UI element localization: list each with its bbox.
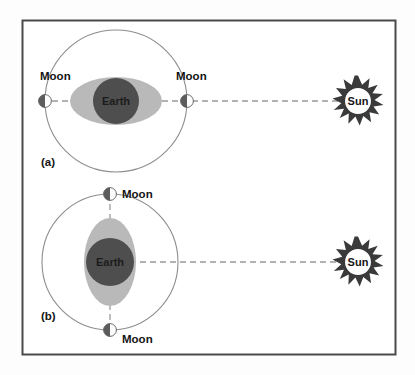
moon-a-right: [181, 95, 194, 108]
figure-container: Earth Moon Moon Sun (a): [0, 0, 415, 375]
moon-a-left: [39, 95, 52, 108]
earth-label-b: Earth: [96, 256, 124, 268]
tidal-diagram-svg: Earth Moon Moon Sun (a): [0, 0, 415, 375]
earth-label-a: Earth: [102, 95, 130, 107]
moon-a-left-label: Moon: [40, 70, 71, 82]
moon-b-bottom-label: Moon: [122, 333, 153, 345]
sun-a-label: Sun: [348, 95, 369, 107]
sun-b-label: Sun: [348, 256, 369, 268]
figure-border: [23, 21, 396, 355]
moon-b-top: [104, 188, 117, 201]
panel-b-label: (b): [41, 310, 56, 322]
moon-a-right-label: Moon: [176, 70, 207, 82]
panel-a-label: (a): [41, 156, 55, 168]
moon-b-bottom: [104, 324, 117, 337]
moon-b-top-label: Moon: [122, 188, 153, 200]
